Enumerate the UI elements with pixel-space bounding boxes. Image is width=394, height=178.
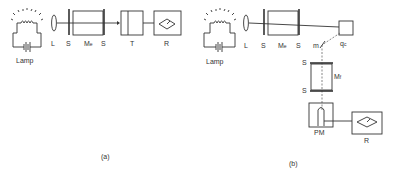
- lens-label: L: [51, 40, 55, 47]
- diagram-canvas: [0, 0, 394, 178]
- target-box: [121, 11, 143, 35]
- monochromator-2-box: [311, 64, 332, 90]
- figure-b: [204, 8, 382, 134]
- lamp-label: Lamp: [206, 58, 224, 65]
- lens-icon: [244, 15, 249, 31]
- caption-b: (b): [289, 160, 298, 167]
- lamp-icon: [11, 8, 43, 52]
- caption-a: (a): [101, 153, 110, 160]
- meter-icon: [357, 117, 377, 127]
- slit-label: S: [296, 42, 301, 49]
- target-label: T: [130, 40, 134, 47]
- quantum-counter-label: qc: [340, 40, 346, 47]
- photomultiplier-box: [309, 103, 333, 127]
- arrow-icon: [117, 21, 120, 25]
- slit-label: S: [302, 87, 307, 94]
- mirror-icon: [320, 41, 325, 48]
- recorder-label: R: [164, 40, 169, 47]
- monochromator-box: [268, 11, 298, 35]
- photomultiplier-label: PM: [314, 129, 325, 136]
- quantum-counter-box: [339, 21, 353, 35]
- monochromator-2-label: Mf: [334, 73, 341, 80]
- slit-label: S: [101, 40, 106, 47]
- lens-icon: [52, 15, 57, 31]
- monochromator-label: Me: [278, 42, 287, 49]
- mirror-label: m: [313, 42, 319, 49]
- photomultiplier-tube-icon: [318, 108, 324, 127]
- slit-label: S: [66, 40, 71, 47]
- recorder-label: R: [364, 137, 369, 144]
- lamp-icon: [204, 8, 236, 52]
- lens-label: L: [244, 42, 248, 49]
- monochromator-label: Me: [84, 40, 93, 47]
- lamp-label: Lamp: [16, 57, 34, 64]
- recorder-box: [352, 112, 382, 134]
- figure-a: [11, 8, 181, 52]
- meter-icon: [159, 19, 175, 29]
- slit-label: S: [302, 59, 307, 66]
- slit-label: S: [261, 42, 266, 49]
